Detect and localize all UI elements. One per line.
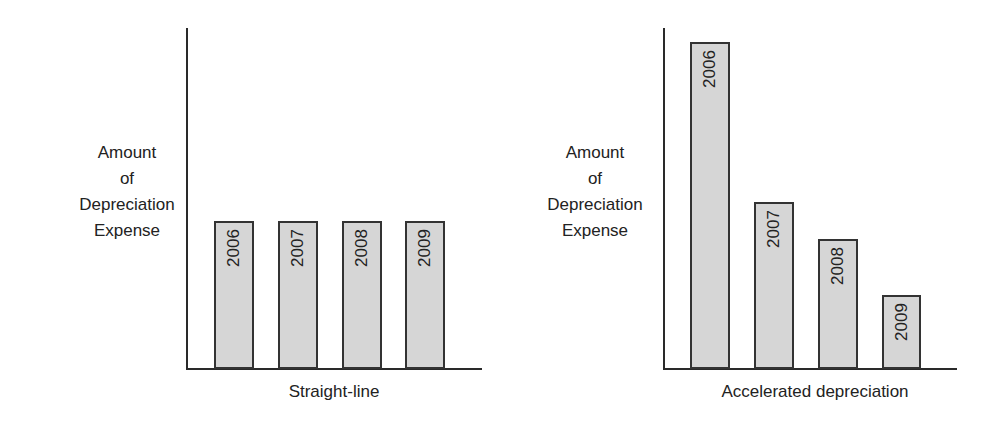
y-axis-label-line: Expense (520, 218, 670, 244)
y-axis-line (663, 28, 665, 370)
y-axis-label-line: Depreciation (520, 192, 670, 218)
bar-label: 2007 (764, 210, 784, 248)
bar-label: 2006 (700, 50, 720, 88)
bar-2008: 2008 (818, 239, 858, 369)
bar-label: 2008 (828, 247, 848, 285)
x-axis-label: Accelerated depreciation (690, 382, 940, 402)
bar-2007: 2007 (754, 202, 794, 369)
y-axis-label-line: Amount (520, 140, 670, 166)
bar-label: 2009 (891, 303, 911, 341)
y-axis-label: Amount of Depreciation Expense (520, 140, 670, 244)
bar-2006: 2006 (690, 42, 730, 369)
bar-2009: 2009 (882, 295, 921, 369)
y-axis-label-line: of (520, 166, 670, 192)
accelerated-depreciation-chart: Amount of Depreciation Expense 2006 2007… (0, 0, 999, 440)
